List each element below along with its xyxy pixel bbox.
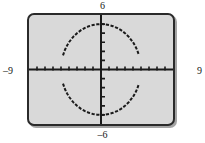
- window-label-xmax: 9: [197, 66, 202, 76]
- window-label-xmin: –9: [3, 66, 13, 76]
- window-label-ymin: –6: [0, 130, 205, 140]
- calculator-screen: [27, 13, 175, 126]
- axes-group: [29, 15, 173, 124]
- window-label-ymax: 6: [0, 1, 205, 11]
- plot-area: [29, 15, 173, 124]
- graphing-calculator-figure: 6 –9 9 –6: [0, 0, 205, 143]
